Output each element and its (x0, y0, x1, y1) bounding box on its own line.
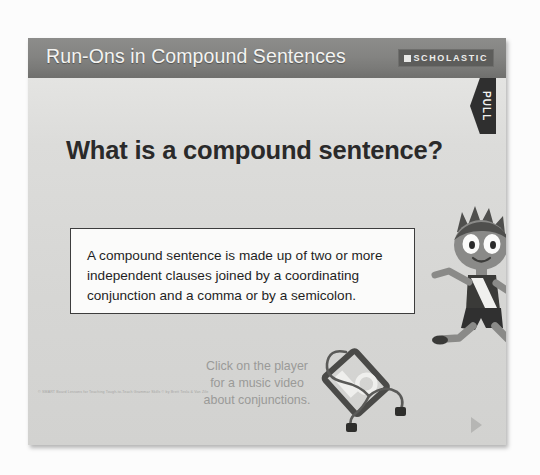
mp3-player-icon[interactable] (313, 326, 433, 434)
definition-text: A compound sentence is made up of two or… (87, 246, 402, 306)
slide-title: Run-Ons in Compound Sentences (46, 45, 346, 68)
square-mark-icon (404, 55, 411, 62)
scholastic-wordmark: SCHOLASTIC (414, 53, 489, 63)
definition-card: A compound sentence is made up of two or… (70, 228, 415, 314)
next-arrow-icon[interactable] (471, 417, 482, 433)
running-boy-icon (423, 198, 506, 348)
slide-header-bar: Run-Ons in Compound Sentences SCHOLASTIC (28, 38, 506, 78)
page-title: What is a compound sentence? (66, 136, 443, 165)
scholastic-logo: SCHOLASTIC (398, 49, 495, 67)
lesson-slide: Run-Ons in Compound Sentences SCHOLASTIC (28, 38, 506, 445)
scanned-page-background: Run-Ons in Compound Sentences SCHOLASTIC (0, 0, 540, 475)
footer-credit: © SMART Board Lessons for Teaching Tough… (38, 390, 208, 394)
pull-tab-label: PULL (470, 78, 496, 134)
pull-tab-arrow-icon[interactable]: PULL (470, 78, 496, 134)
